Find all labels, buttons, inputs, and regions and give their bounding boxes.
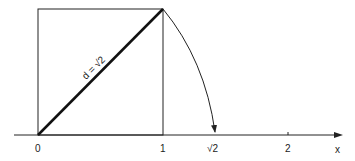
axis-label-x: x [335, 144, 340, 155]
diagonal-line [38, 9, 163, 135]
rotation-arc [163, 9, 215, 132]
tick-label-1: 1 [160, 143, 166, 154]
x-axis-arrowhead-icon [334, 132, 343, 138]
tick-label-0: 0 [35, 143, 41, 154]
tick-label-2: 2 [285, 143, 291, 154]
tick-label-sqrt2: √2 [207, 143, 218, 154]
diagram-canvas: 0 1 √2 2 x d = √2 [0, 0, 355, 161]
